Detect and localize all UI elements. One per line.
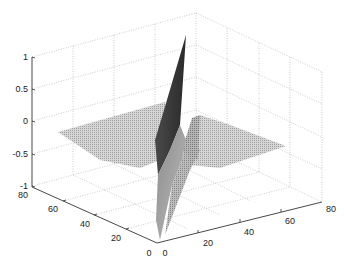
x-tick-label: 20 (203, 238, 213, 248)
x-tick-label: 60 (285, 216, 295, 226)
x-tick-label: 0 (162, 248, 167, 258)
y-tick-label: 20 (111, 233, 121, 243)
surface-plot: 1 0.5 0 -0.5 -1 80 60 40 20 0 0 20 40 60… (0, 0, 344, 270)
z-tick-label: -0.5 (12, 149, 28, 159)
surface-sheet-left (58, 102, 170, 168)
z-tick-label: 0.5 (15, 84, 28, 94)
x-axis (157, 202, 322, 243)
x-tick-labels: 0 20 40 60 80 (162, 204, 336, 258)
z-tick-label: 1 (23, 52, 28, 62)
z-tick-labels: 1 0.5 0 -0.5 -1 (12, 52, 28, 191)
y-tick-label: 60 (48, 204, 58, 214)
surface-sheet-right (185, 115, 286, 168)
x-tick-label: 80 (326, 204, 336, 214)
z-tick-label: 0 (23, 116, 28, 126)
y-tick-labels: 80 60 40 20 0 (18, 190, 152, 258)
y-tick-label: 80 (18, 190, 28, 200)
y-tick-label: 0 (146, 248, 151, 258)
x-tick-label: 40 (244, 227, 254, 237)
y-tick-label: 40 (80, 219, 90, 229)
